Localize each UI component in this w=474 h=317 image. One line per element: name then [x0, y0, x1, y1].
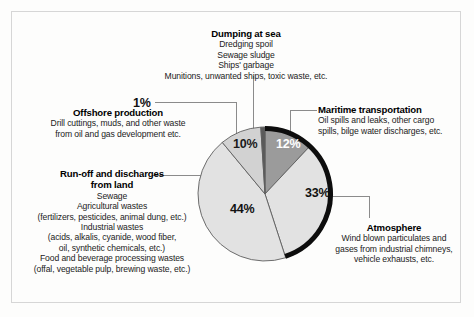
callout-offshore-production: Offshore production Drill cuttings, muds…: [22, 107, 214, 139]
callout-runoff-line-4: Industrial wastes: [14, 222, 210, 232]
figure-canvas: 12% 10% 33% 44% 1% Dumping at sea Dredgi…: [0, 0, 474, 317]
callout-dumping-at-sea: Dumping at sea Dredging spoil Sewage slu…: [122, 28, 370, 81]
callout-runoff-from-land: Run-off and discharges from land Sewage …: [14, 168, 210, 274]
callout-dumping-line-3: Ships' garbage: [122, 60, 370, 70]
callout-maritime-line-2: spills, bilge water discharges, etc.: [318, 126, 468, 136]
callout-dumping-line-2: Sewage sludge: [122, 50, 370, 60]
callout-runoff-line-1: Sewage: [14, 191, 210, 201]
callout-atmosphere-line-2: gases from industrial chimneys,: [322, 244, 466, 254]
callout-runoff-heading-line-1: Run-off and discharges: [14, 168, 210, 179]
pie-label-atmosphere-percent: 33%: [305, 186, 329, 200]
leader-line-atmosphere-horizontal: [330, 196, 370, 197]
callout-maritime-line-1: Oil spills and leaks, other cargo: [318, 115, 468, 125]
callout-dumping-line-4: Munitions, unwanted ships, toxic waste, …: [122, 71, 370, 81]
callout-runoff-line-2: Agricultural wastes: [14, 201, 210, 211]
callout-offshore-line-2: from oil and gas development etc.: [22, 129, 214, 139]
pie-label-dumping-percent: 10%: [233, 137, 257, 151]
callout-dumping-line-1: Dredging spoil: [122, 39, 370, 49]
callout-atmosphere-line-1: Wind blown particulates and: [322, 233, 466, 243]
leader-line-atmosphere-vertical: [369, 196, 370, 218]
callout-runoff-heading-line-2: from land: [14, 179, 210, 190]
leader-line-offshore-horizontal: [155, 102, 237, 103]
leader-line-maritime-horizontal: [290, 110, 317, 111]
callout-atmosphere: Atmosphere Wind blown particulates and g…: [322, 222, 466, 265]
callout-runoff-line-3: (fertilizers, pesticides, animal dung, e…: [14, 212, 210, 222]
callout-runoff-line-7: Food and beverage processing wastes: [14, 253, 210, 263]
callout-maritime-heading: Maritime transportation: [318, 104, 468, 115]
pie-label-maritime-percent: 12%: [276, 137, 300, 151]
callout-dumping-heading: Dumping at sea: [122, 28, 370, 39]
callout-runoff-line-6: oil, synthetic chemicals, etc.): [14, 243, 210, 253]
callout-offshore-line-1: Drill cuttings, muds, and other waste: [22, 118, 214, 128]
callout-atmosphere-heading: Atmosphere: [322, 222, 466, 233]
callout-maritime-transportation: Maritime transportation Oil spills and l…: [318, 104, 468, 136]
pie-label-runoff-percent: 44%: [230, 202, 254, 216]
callout-atmosphere-line-3: vehicle exhausts, etc.: [322, 254, 466, 264]
callout-runoff-line-5: (acids, alkalis, cyanide, wood fiber,: [14, 232, 210, 242]
callout-offshore-heading: Offshore production: [22, 107, 214, 118]
callout-runoff-line-8: (offal, vegetable pulp, brewing waste, e…: [14, 264, 210, 274]
